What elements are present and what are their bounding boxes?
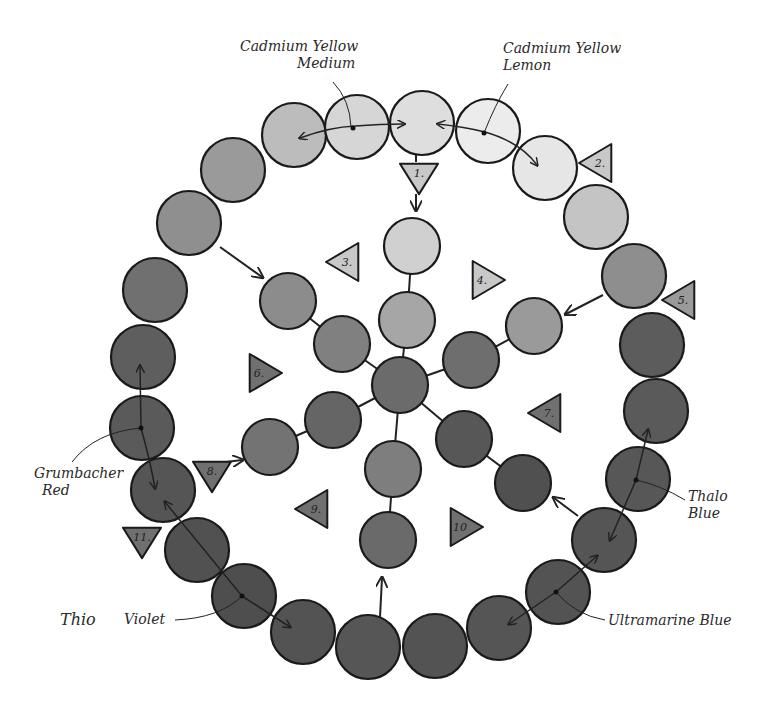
inner-swatch xyxy=(436,411,492,467)
label-thalo-blue: Thalo Blue xyxy=(688,488,728,522)
outer-swatch xyxy=(403,614,467,678)
arrow-red-up xyxy=(140,366,141,428)
step-number: 2. xyxy=(594,157,606,170)
inner-swatch xyxy=(360,512,416,568)
arrow-ul xyxy=(220,247,262,277)
outer-swatch xyxy=(201,138,265,202)
outer-swatch xyxy=(390,91,454,155)
outer-swatch xyxy=(602,244,666,308)
step-number: 7. xyxy=(544,407,555,420)
step-number: 8. xyxy=(207,465,218,478)
outer-swatch xyxy=(262,103,326,167)
color-wheel-diagram: 1.2.3.4.5.6.7.8.9.1011. xyxy=(0,0,759,714)
outer-swatch xyxy=(325,95,389,159)
outer-swatch xyxy=(271,600,335,664)
label-grumbacher-red: Grumbacher Red xyxy=(34,465,123,499)
label-line: Thalo xyxy=(688,488,728,505)
inner-swatch xyxy=(495,455,551,511)
arrow-bottom xyxy=(380,578,382,617)
step-number: 1. xyxy=(414,167,425,180)
outer-swatch xyxy=(456,99,520,163)
inner-swatch xyxy=(314,316,370,372)
inner-swatch xyxy=(372,357,428,413)
outer-swatch xyxy=(564,185,628,249)
label-cadmium-yellow-medium: Cadmium Yellow Medium xyxy=(240,38,358,72)
inner-swatch xyxy=(305,392,361,448)
outer-swatch xyxy=(467,596,531,660)
label-violet: Violet xyxy=(124,611,165,628)
label-thio: Thio xyxy=(60,611,96,628)
outer-swatch xyxy=(572,508,636,572)
label-cadmium-yellow-lemon: Cadmium Yellow Lemon xyxy=(503,40,621,74)
arrow-t8 xyxy=(226,460,242,462)
label-line: Cadmium Yellow xyxy=(240,38,358,55)
step-number: 4. xyxy=(476,274,488,287)
label-line: Red xyxy=(34,482,123,499)
step-number: 9. xyxy=(311,503,322,516)
label-line: Grumbacher xyxy=(34,465,123,482)
inner-spokes xyxy=(242,218,562,568)
label-line: Blue xyxy=(688,505,728,522)
step-number: 10 xyxy=(453,521,467,534)
outer-swatch xyxy=(157,191,221,255)
step-number: 11. xyxy=(133,531,151,544)
step-number: 6. xyxy=(254,367,265,380)
inner-swatch xyxy=(365,441,421,497)
inner-swatch xyxy=(443,332,499,388)
inner-swatch xyxy=(242,419,298,475)
step-number: 5. xyxy=(678,294,689,307)
outer-swatch xyxy=(111,325,175,389)
outer-swatch xyxy=(123,258,187,322)
outer-swatch xyxy=(624,379,688,443)
arrow-lr xyxy=(554,498,578,516)
inner-swatch xyxy=(260,273,316,329)
inner-swatch xyxy=(506,298,562,354)
label-line: Medium xyxy=(240,55,358,72)
label-ultramarine-blue: Ultramarine Blue xyxy=(608,612,732,629)
outer-swatch xyxy=(165,518,229,582)
outer-swatch xyxy=(131,458,195,522)
outer-swatch xyxy=(620,313,684,377)
inner-swatch xyxy=(379,292,435,348)
outer-swatch xyxy=(336,615,400,679)
step-number: 3. xyxy=(342,256,353,269)
label-line: Lemon xyxy=(503,57,621,74)
arrow-ur xyxy=(566,295,603,314)
label-line: Cadmium Yellow xyxy=(503,40,621,57)
outer-swatch xyxy=(513,136,577,200)
inner-swatch xyxy=(384,218,440,274)
